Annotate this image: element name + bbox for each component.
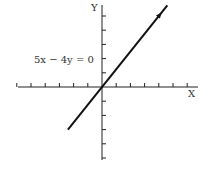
axes (18, 5, 198, 160)
x-axis-label: X (188, 88, 196, 99)
equation-label: 5x − 4y = 0 (34, 54, 94, 65)
equation-line (68, 5, 167, 129)
coordinate-plane: X Y 5x − 4y = 0 (0, 0, 213, 171)
y-axis-label: Y (90, 2, 98, 13)
